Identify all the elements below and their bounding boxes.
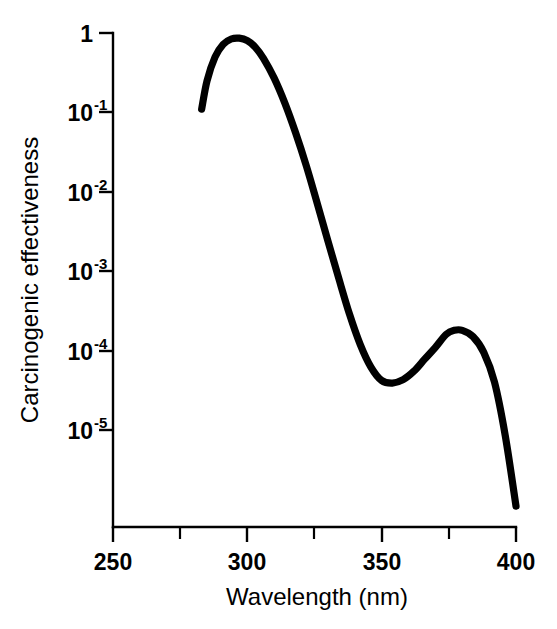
y-tick-label-5-group: 10 -5	[67, 414, 107, 444]
figure-container: 1 10 -1 10 -2 10 -3 10 -4 10 -5 250 300 …	[0, 0, 557, 629]
chart-canvas: 1 10 -1 10 -2 10 -3 10 -4 10 -5 250 300 …	[0, 0, 557, 629]
y-tick-label-1-mantissa: 10	[67, 100, 93, 126]
y-tick-label-4-mantissa: 10	[67, 339, 93, 365]
y-tick-label-3-group: 10 -3	[67, 255, 107, 285]
y-tick-label-4-group: 10 -4	[67, 335, 108, 365]
y-tick-label-2-group: 10 -2	[67, 176, 107, 206]
y-tick-label-2-mantissa: 10	[67, 180, 93, 206]
y-tick-label-1-exponent: -1	[94, 96, 107, 113]
x-tick-label-250: 250	[94, 549, 132, 575]
y-tick-label-3-mantissa: 10	[67, 259, 93, 285]
y-tick-label-2-exponent: -2	[94, 176, 107, 193]
x-tick-label-300: 300	[228, 549, 266, 575]
y-tick-label-3-exponent: -3	[94, 255, 107, 272]
y-tick-label-1-group: 10 -1	[67, 96, 107, 126]
y-axis-title: Carcinogenic effectiveness	[16, 137, 43, 423]
y-tick-label-4-exponent: -4	[94, 335, 108, 352]
data-curve-carcinogenic-action-spectrum	[202, 38, 516, 506]
x-axis-title: Wavelength (nm)	[226, 583, 408, 610]
x-tick-label-350: 350	[363, 549, 401, 575]
y-tick-label-5-mantissa: 10	[67, 418, 93, 444]
y-tick-label-0: 1	[80, 21, 93, 47]
x-tick-label-400: 400	[497, 549, 535, 575]
y-tick-label-5-exponent: -5	[94, 414, 107, 431]
